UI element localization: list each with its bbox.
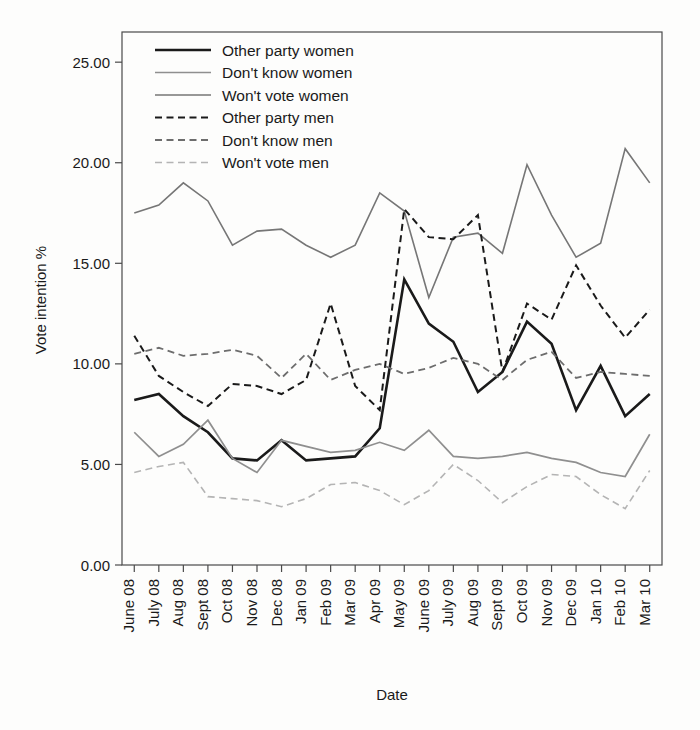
legend-label-4: Don't know men (222, 132, 333, 149)
x-tick-label: June 08 (120, 579, 137, 632)
legend-label-0: Other party women (222, 42, 354, 59)
x-tick-label: Oct 09 (513, 579, 530, 623)
y-axis-title: Vote intention % (32, 246, 49, 354)
x-tick-label: Jan 10 (587, 579, 604, 624)
x-axis-title: Date (376, 686, 408, 703)
vote-intention-line-chart: 0.005.0010.0015.0020.0025.00 June 08July… (0, 0, 700, 730)
y-tick-label: 20.00 (72, 154, 110, 171)
x-tick-label: July 09 (439, 579, 456, 627)
x-tick-label: July 08 (145, 579, 162, 627)
x-tick-label: Sept 08 (194, 579, 211, 631)
x-tick-label: Dec 08 (268, 579, 285, 627)
x-tick-label: Dec 09 (562, 579, 579, 627)
x-tick-label: June 09 (415, 579, 432, 632)
legend-label-1: Don't know women (222, 64, 352, 81)
x-tick-label: Feb 09 (317, 579, 334, 626)
x-tick-label: Nov 08 (243, 579, 260, 627)
x-tick-label: Feb 10 (611, 579, 628, 626)
y-tick-label: 10.00 (72, 355, 110, 372)
legend-label-3: Other party men (222, 109, 334, 126)
x-tick-label: Aug 08 (169, 579, 186, 627)
x-tick-label: Mar 09 (341, 579, 358, 626)
y-tick-label: 15.00 (72, 255, 110, 272)
x-tick-label: Sept 09 (488, 579, 505, 631)
x-tick-label: Oct 08 (218, 579, 235, 623)
x-tick-label: Jan 09 (292, 579, 309, 624)
x-tick-label: Mar 10 (636, 579, 653, 626)
x-tick-label: May 09 (390, 579, 407, 628)
x-tick-label: Aug 09 (464, 579, 481, 627)
x-tick-label: Nov 09 (538, 579, 555, 627)
legend-label-2: Won't vote women (222, 87, 349, 104)
x-tick-label: Apr 09 (366, 579, 383, 623)
y-tick-label: 0.00 (81, 557, 110, 574)
y-tick-label: 5.00 (81, 456, 110, 473)
legend-label-5: Won't vote men (222, 154, 329, 171)
y-tick-label: 25.00 (72, 54, 110, 71)
